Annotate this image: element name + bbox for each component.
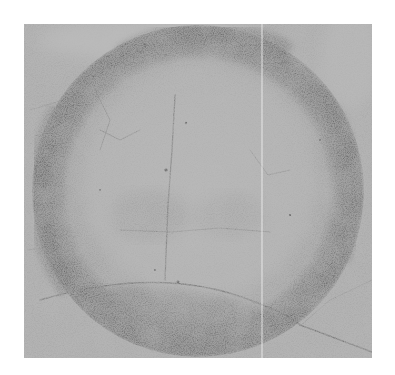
weathered-surface-photo	[24, 24, 372, 358]
image-alt-text: Circular dark ring on textured gray surf…	[0, 0, 1, 1]
photograph-frame	[24, 24, 372, 358]
image-canvas: Circular dark ring on textured gray surf…	[0, 0, 395, 375]
